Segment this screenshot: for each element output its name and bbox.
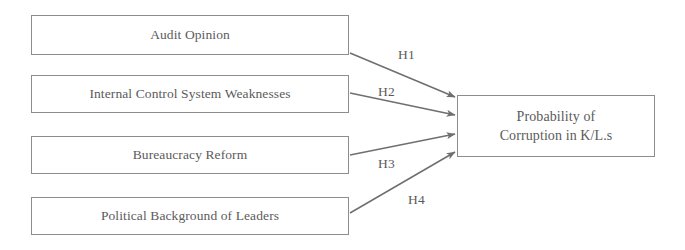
node-audit-opinion-label: Audit Opinion (144, 26, 236, 43)
arrow-h2 (350, 93, 455, 115)
hypothesis-label-h1: H1 (398, 47, 415, 63)
hypothesis-label-h3: H3 (378, 156, 395, 172)
node-internal-control-system-weaknesses-label: Internal Control System Weaknesses (83, 85, 296, 102)
research-framework-diagram: Audit Opinion Internal Control System We… (0, 0, 685, 250)
node-bureaucracy-reform-label: Bureaucracy Reform (127, 146, 254, 163)
node-bureaucracy-reform: Bureaucracy Reform (31, 136, 349, 174)
node-internal-control-system-weaknesses: Internal Control System Weaknesses (31, 75, 349, 113)
arrow-h4 (350, 152, 455, 213)
node-probability-of-corruption: Probability of Corruption in K/L.s (457, 95, 655, 157)
node-probability-of-corruption-label: Probability of Corruption in K/L.s (494, 107, 619, 146)
arrow-h3 (350, 134, 455, 155)
hypothesis-label-h4: H4 (408, 192, 425, 208)
hypothesis-label-h2: H2 (378, 84, 395, 100)
node-political-background-of-leaders-label: Political Background of Leaders (95, 207, 285, 224)
node-political-background-of-leaders: Political Background of Leaders (31, 197, 349, 235)
node-audit-opinion: Audit Opinion (31, 15, 349, 55)
